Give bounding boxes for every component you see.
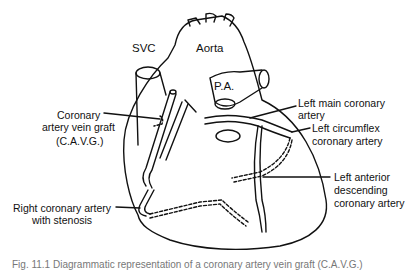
label-cavg-2: artery vein graft xyxy=(42,121,115,133)
figure-caption: Fig. 11.1 Diagrammatic representation of… xyxy=(12,259,363,270)
leader-lmca xyxy=(250,106,296,118)
label-lcx-1: Left circumflex xyxy=(312,122,380,134)
rca xyxy=(139,190,154,216)
label-lmca-1: Left main coronary xyxy=(298,97,385,109)
label-rca-2: with stenosis xyxy=(32,214,92,226)
leader-lcx xyxy=(292,128,310,132)
label-cavg-1: Coronary xyxy=(57,109,100,121)
label-cavg-3: (C.A.V.G.) xyxy=(56,135,103,147)
label-lad-1: Left anterior xyxy=(334,171,390,183)
leader-cavg xyxy=(104,113,160,119)
lcx xyxy=(232,138,292,182)
leader-rca xyxy=(116,207,140,208)
svc-opening xyxy=(136,67,160,79)
lad xyxy=(254,126,266,232)
label-lad-3: coronary artery xyxy=(334,197,405,209)
label-svc: SVC xyxy=(132,42,156,54)
label-rca-1: Right coronary artery xyxy=(13,202,111,214)
label-aorta: Aorta xyxy=(196,42,224,54)
svc-tube xyxy=(136,73,166,145)
vein-graft xyxy=(143,92,176,188)
rca-dashed xyxy=(150,200,248,226)
pa-opening xyxy=(259,70,269,88)
label-lmca-2: artery xyxy=(298,109,325,121)
label-pa: P.A. xyxy=(214,80,234,92)
label-lad-2: descending xyxy=(334,184,388,196)
label-lcx-2: coronary artery xyxy=(312,135,383,147)
left-atrial-appendage xyxy=(216,130,240,142)
